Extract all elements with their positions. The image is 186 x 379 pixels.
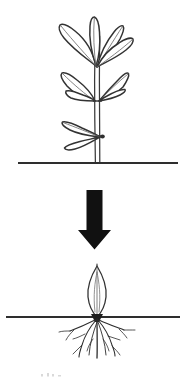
propagation-figure <box>0 0 186 379</box>
leaf-node-marker <box>100 134 105 138</box>
propagation-illustration <box>0 0 186 379</box>
